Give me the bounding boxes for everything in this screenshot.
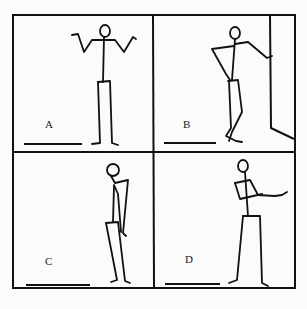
panel-c: C [26,164,130,285]
stick-figure-a [72,25,136,145]
panel-label-d: D [185,253,193,265]
wall-line [270,15,294,139]
posture-diagram: A B C [0,0,307,309]
panel-b: B [164,15,294,143]
panel-label-a: A [45,118,53,130]
panel-label-b: B [183,118,190,130]
stick-figure-b [212,27,272,142]
panel-label-c: C [45,255,52,267]
panel-a: A [24,25,136,145]
panel-d: D [165,160,287,286]
stick-figure-d [229,160,287,286]
stick-figure-c [106,164,130,283]
